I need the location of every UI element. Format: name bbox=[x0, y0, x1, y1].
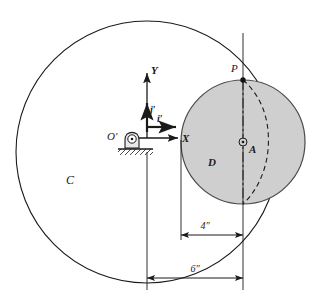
ground-hatching bbox=[118, 149, 153, 155]
unit-vector-j-label: j′ bbox=[148, 104, 156, 115]
circle-c-label: C bbox=[66, 173, 75, 187]
unit-vector-i-label: i′ bbox=[157, 113, 163, 124]
figure-canvas: P A C D Y X j′ i′ O′ 4″ bbox=[0, 0, 320, 304]
origin-label: O′ bbox=[107, 130, 118, 142]
kinematics-diagram-svg: P A C D Y X j′ i′ O′ 4″ bbox=[0, 0, 320, 304]
x-axis-label: X bbox=[181, 132, 190, 144]
inner-dim-label: 4″ bbox=[200, 220, 210, 231]
outer-dim-label: 6″ bbox=[190, 263, 200, 274]
disk-d-label: D bbox=[207, 156, 216, 168]
disk-center-a-dot bbox=[242, 141, 245, 144]
pin-support-pin-dot bbox=[131, 138, 134, 141]
y-axis-label: Y bbox=[151, 64, 159, 76]
disk-center-a-label: A bbox=[248, 143, 256, 155]
point-p-marker bbox=[240, 77, 245, 82]
point-p-label: P bbox=[230, 62, 238, 74]
